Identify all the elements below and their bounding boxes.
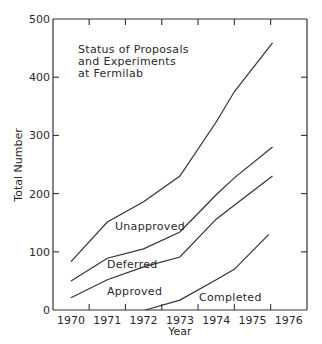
y-tick-label: 0 (43, 304, 50, 317)
y-tick-label: 300 (29, 129, 50, 142)
x-tick-label: 1971 (93, 314, 121, 327)
y-tick-label: 400 (29, 71, 50, 84)
x-tick-label: 1972 (130, 314, 158, 327)
series-labels: Unapproved Deferred Approved Completed (107, 220, 262, 304)
x-axis-title: Year (167, 325, 192, 338)
x-tick-label: 1975 (239, 314, 267, 327)
series-lines (71, 43, 273, 310)
chart: 0100200300400500197019711972197319741975… (0, 0, 322, 344)
chart-title: Status of Proposals and Experiments at F… (78, 43, 189, 80)
series-line-approved (71, 176, 273, 298)
series-label-deferred: Deferred (107, 258, 158, 271)
series-label-approved: Approved (107, 285, 162, 298)
series-label-unapproved: Unapproved (115, 220, 185, 233)
y-axis-title: Total Number (12, 128, 25, 203)
y-tick-label: 100 (29, 246, 50, 259)
x-tick-label: 1976 (275, 314, 303, 327)
y-tick-label: 200 (29, 188, 50, 201)
y-tick-label: 500 (29, 13, 50, 26)
x-tick-label: 1974 (202, 314, 230, 327)
title-line-3: at Fermilab (78, 67, 143, 80)
x-tick-label: 1970 (57, 314, 85, 327)
series-label-completed: Completed (199, 291, 262, 304)
